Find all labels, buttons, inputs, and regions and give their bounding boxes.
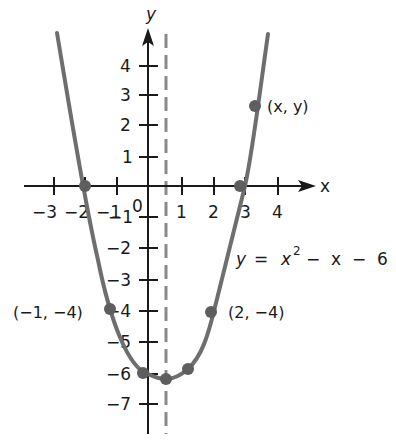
point-label-x-y: (x, y) [267, 97, 309, 116]
x-tick-label: 1 [176, 202, 187, 222]
parabola-graph: x −3 −2 −1 0 1 2 3 4 y 4 3 [0, 0, 396, 440]
vertex-point [160, 373, 172, 385]
y-tick-label: −1 [108, 207, 133, 227]
x-tick-label: 2 [208, 202, 219, 222]
point-neg1-neg4 [104, 303, 116, 315]
y-axis: y 4 3 2 1 −1 −2 −3 −4 −5 −6 −7 [106, 4, 158, 434]
y-axis-label: y [145, 4, 157, 24]
point-2-neg4 [205, 306, 217, 318]
x-tick-label: 4 [272, 202, 283, 222]
equation-rest: − x − 6 [306, 249, 388, 269]
y-tick-label: −7 [106, 394, 131, 414]
point-label-2-neg4: (2, −4) [228, 303, 284, 322]
point-label-neg1-neg4: (−1, −4) [13, 303, 83, 322]
equation-equals: = [254, 249, 268, 269]
x-axis-label: x [320, 176, 330, 196]
y-tick-label: −2 [106, 238, 131, 258]
equation-lhs: y [235, 249, 247, 269]
parabola-curve-path [57, 33, 268, 379]
point-3-0 [234, 180, 246, 192]
y-tick-label: 1 [122, 147, 133, 167]
y-tick-label: 4 [120, 56, 131, 76]
point-neg2-0 [79, 180, 91, 192]
point-1-neg6 [182, 363, 194, 375]
y-tick-label: 2 [120, 115, 131, 135]
equation-exponent: 2 [293, 244, 301, 258]
origin-label: 0 [132, 196, 143, 216]
equation-label: y = x 2 − x − 6 [235, 244, 388, 269]
x-axis: x −3 −2 −1 0 1 2 3 4 [24, 176, 330, 222]
x-tick-label: −3 [32, 202, 57, 222]
equation-x: x [280, 249, 292, 269]
point-0-neg6 [137, 367, 149, 379]
y-tick-label: 3 [120, 85, 131, 105]
y-tick-label: −3 [106, 270, 131, 290]
point-x-y [249, 100, 261, 112]
y-tick-label: −6 [106, 364, 131, 384]
